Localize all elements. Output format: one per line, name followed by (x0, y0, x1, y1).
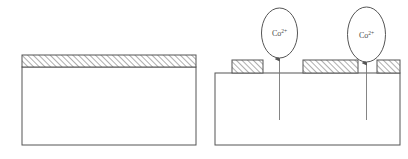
panel-right-hatched-island-3 (377, 60, 400, 73)
cobalt-ion-label-2-charge: 2+ (368, 30, 374, 36)
panel-left-hatched-coating-layer (22, 55, 196, 67)
cobalt-ion-label-1-text: Co (272, 29, 281, 38)
panel-left-substrate-block (22, 67, 196, 145)
cobalt-ion-label-2-text: Co (359, 31, 368, 40)
figure-root: Co2+ Co2+ (0, 0, 408, 159)
panel-left (22, 55, 196, 145)
panel-right: Co2+ Co2+ (215, 7, 400, 145)
panel-right-hatched-island-2 (303, 60, 358, 73)
cobalt-ion-label-1-charge: 2+ (281, 28, 287, 34)
panel-right-hatched-island-1 (232, 60, 263, 73)
figure-canvas: Co2+ Co2+ (0, 0, 408, 159)
panel-right-substrate-block (215, 73, 400, 145)
